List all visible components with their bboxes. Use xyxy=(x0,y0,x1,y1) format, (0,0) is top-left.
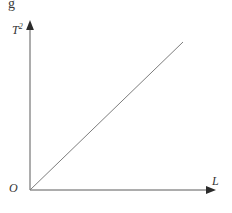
x-axis-label: L xyxy=(212,175,219,187)
corner-annotation-g: g xyxy=(8,0,15,11)
data-series-line xyxy=(30,42,183,190)
y-axis-arrowhead-icon xyxy=(26,20,34,30)
y-axis-label: T2 xyxy=(12,23,23,36)
origin-label: O xyxy=(9,182,18,194)
plot-area xyxy=(0,0,232,213)
y-axis-label-base: T xyxy=(12,23,19,37)
y-axis-label-superscript: 2 xyxy=(19,22,23,31)
figure-canvas: g T2 L O xyxy=(0,0,232,213)
